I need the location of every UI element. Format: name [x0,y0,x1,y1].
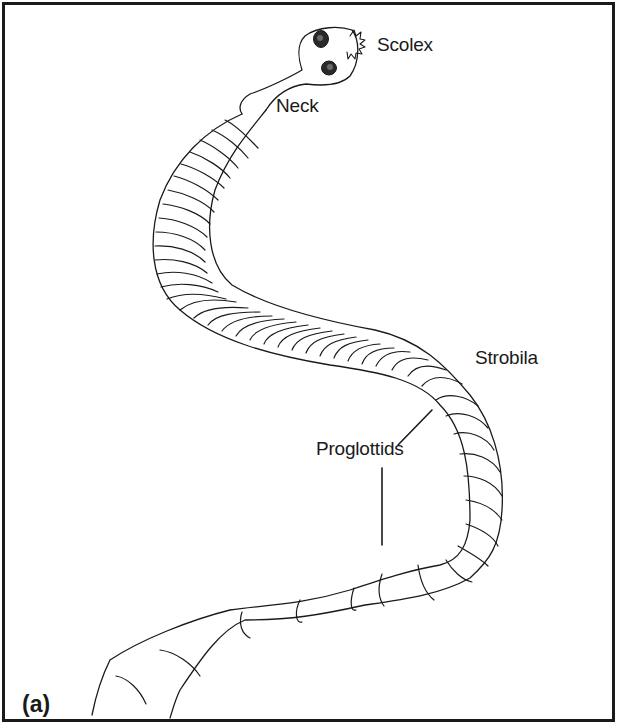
strobila-label: Strobila [475,347,538,369]
panel-label: (a) [22,691,50,718]
proglottid-segments [116,120,502,704]
neck-label: Neck [276,95,319,117]
scolex-label: Scolex [377,34,433,56]
proglottids-label: Proglottids [316,438,404,460]
leader-lines [382,410,432,545]
strobila-outline [92,110,502,718]
